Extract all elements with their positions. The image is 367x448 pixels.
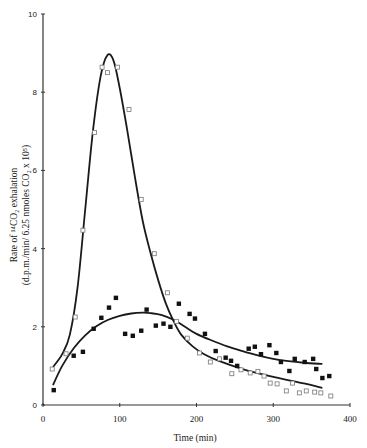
open-square-marker: [313, 390, 317, 394]
filled-square-marker: [99, 316, 103, 320]
open-square-marker: [81, 228, 85, 232]
x-tick-label: 200: [190, 414, 204, 424]
axes: 01002003004000246810: [28, 10, 357, 424]
filled-square-marker: [293, 357, 297, 361]
filled-square-marker: [235, 364, 239, 368]
open-square-marker: [175, 319, 179, 323]
filled-square-marker: [193, 316, 197, 320]
open-square-marker: [127, 107, 131, 111]
open-square-marker: [268, 381, 272, 385]
x-tick-label: 400: [343, 414, 357, 424]
filled-square-marker: [154, 323, 158, 327]
filled-square-marker: [320, 376, 324, 380]
open-square-marker: [319, 391, 323, 395]
data-markers: [50, 65, 333, 398]
y-tick-label: 8: [33, 88, 38, 97]
open-square-marker: [64, 352, 68, 356]
open-square-marker: [248, 371, 252, 375]
filled-square-marker: [91, 327, 95, 331]
open-square-marker: [198, 351, 202, 355]
y-tick-label: 10: [28, 10, 37, 19]
filled-square-marker: [229, 359, 233, 363]
y-axis-title-line1: Rate of ¹⁴CO₂ exhalation: [9, 167, 19, 262]
open-square-marker: [105, 71, 109, 75]
filled-square-marker: [107, 305, 111, 309]
open-square-marker: [230, 372, 234, 376]
open-square-marker: [73, 315, 77, 319]
open-square-marker: [304, 389, 308, 393]
filled-square-marker: [139, 329, 143, 333]
open-square-marker: [239, 368, 243, 372]
open-square-marker: [92, 130, 96, 134]
filled-square-marker: [144, 307, 148, 311]
open-square-marker: [100, 65, 104, 69]
filled-square-marker: [203, 332, 207, 336]
chart: 01002003004000246810 Time (min) Rate of …: [0, 0, 367, 448]
open-square-marker: [290, 381, 294, 385]
x-tick-label: 300: [267, 414, 281, 424]
filled-square-marker: [274, 351, 278, 355]
filled-square-marker: [72, 354, 76, 358]
filled-square-marker: [259, 352, 263, 356]
open-square-marker: [115, 65, 119, 69]
filled-square-marker: [123, 332, 127, 336]
y-axis-title-line2: (d.p.m./min/ 6.25 nmoles CO₂ x 10⁵): [21, 145, 32, 285]
filled-square-marker: [287, 369, 291, 373]
x-axis-title: Time (min): [173, 433, 216, 444]
open-square-marker: [152, 252, 156, 256]
y-tick-label: 4: [33, 245, 38, 254]
filled-square-marker: [303, 360, 307, 364]
filled-square-marker: [161, 321, 165, 325]
filled-square-marker: [81, 350, 85, 354]
open-square-marker: [262, 374, 266, 378]
open-square-marker: [256, 369, 260, 373]
filled-square-marker: [267, 343, 271, 347]
filled-square-marker: [223, 355, 227, 359]
filled-square-marker: [187, 312, 191, 316]
filled-square-marker: [327, 374, 331, 378]
y-tick-label: 0: [33, 401, 38, 410]
filled-square-marker: [314, 367, 318, 371]
y-tick-label: 6: [33, 166, 38, 175]
filled-square-marker: [52, 388, 56, 392]
open-square-marker: [297, 391, 301, 395]
open-square-marker: [139, 197, 143, 201]
filled-square-marker: [279, 360, 283, 364]
open-square-marker: [284, 389, 288, 393]
filled-square-marker: [131, 334, 135, 338]
filled-square-marker: [168, 325, 172, 329]
open-square-marker: [50, 367, 54, 371]
x-tick-label: 100: [113, 414, 127, 424]
open-square-marker: [275, 382, 279, 386]
filled-square-marker: [246, 346, 250, 350]
filled-square-marker: [213, 349, 217, 353]
open-square-marker: [185, 336, 189, 340]
open-square-marker: [329, 394, 333, 398]
open-square-marker: [218, 357, 222, 361]
filled-square-marker: [177, 302, 181, 306]
open-square-marker: [208, 360, 212, 364]
fit-curve-filled: [53, 313, 322, 385]
filled-square-marker: [114, 296, 118, 300]
filled-square-marker: [311, 357, 315, 361]
open-square-marker: [165, 291, 169, 295]
filled-square-marker: [253, 345, 257, 349]
x-tick-label: 0: [41, 414, 46, 424]
y-tick-label: 2: [33, 323, 38, 332]
